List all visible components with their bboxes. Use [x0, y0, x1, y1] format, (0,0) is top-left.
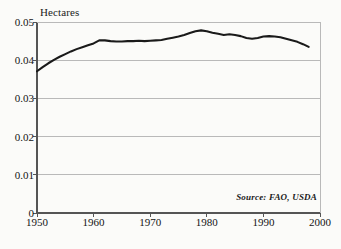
x-tick-label: 1990 [252, 216, 274, 228]
grid-lines [37, 60, 320, 175]
x-tick-label: 1970 [139, 216, 161, 228]
plot-frame [37, 22, 320, 213]
data-line-group [37, 30, 309, 71]
y-tick-label: 0.05 [2, 16, 34, 28]
y-tick-label: 0.02 [2, 131, 34, 143]
axis-ticks [33, 22, 320, 217]
y-tick-label: 0.04 [2, 54, 34, 66]
y-axis-title: Hectares [40, 6, 79, 18]
source-annotation: Source: FAO, USDA [236, 192, 317, 202]
x-tick-label: 1980 [196, 216, 218, 228]
x-tick-label: 2000 [309, 216, 331, 228]
y-axis-tick-labels: 0.050.040.030.020.010 [0, 0, 34, 249]
x-tick-label: 1960 [83, 216, 105, 228]
chart-figure: Hectares 0.050.040.030.020.010 195019601… [0, 0, 341, 249]
y-tick-label: 0.03 [2, 92, 34, 104]
y-tick-label: 0.01 [2, 169, 34, 181]
x-tick-label: 1950 [26, 216, 48, 228]
plot-area [0, 0, 341, 249]
data-line-series-0 [37, 30, 309, 71]
